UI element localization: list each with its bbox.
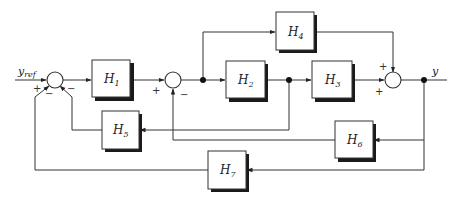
s1-plus-sign: + (33, 83, 41, 94)
block-h3: H3 (312, 61, 355, 102)
block-h7: H7 (208, 151, 249, 192)
s2-minus-sign: − (180, 89, 188, 100)
branch-point-a (200, 77, 206, 83)
block-h6: H6 (335, 121, 376, 162)
summing-junction-1 (47, 72, 63, 88)
branch-point-b (286, 77, 292, 83)
summing-junction-3 (385, 72, 401, 88)
output-signal-label: y (431, 65, 439, 78)
input-signal-label: yref (17, 65, 38, 79)
block-h5: H5 (102, 111, 142, 152)
s1-minus-sign-h5: − (67, 83, 75, 94)
block-h4: H4 (276, 12, 317, 53)
s3-plus-sign-left: + (375, 86, 383, 97)
s2-plus-sign: + (152, 85, 160, 96)
block-diagram: + − − + − + + yref y H1 H2 H3 H4 H5 H6 (0, 0, 463, 205)
branch-point-output (421, 77, 427, 83)
summing-junction-2 (165, 72, 181, 88)
block-h2: H2 (226, 61, 268, 102)
s1-minus-sign-h7: − (45, 88, 53, 99)
s3-plus-sign-top: + (379, 61, 387, 72)
block-h1: H1 (92, 60, 134, 101)
